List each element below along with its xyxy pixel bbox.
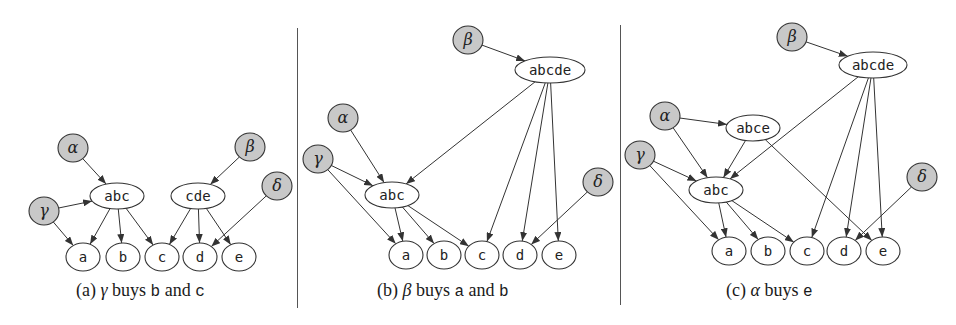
caption-agent: α: [750, 280, 759, 300]
panel-divider-1: [297, 28, 298, 308]
node-label: abc: [104, 188, 129, 204]
edge-alpha-to-abc: [673, 128, 707, 178]
node-label: β: [786, 27, 796, 46]
node-b: b: [427, 241, 461, 269]
node-label: b: [764, 243, 772, 259]
edge-beta-to-cde: [210, 157, 239, 184]
caption-panel-c: (c) α buys e: [726, 280, 813, 301]
edge-abcde-to-d: [846, 78, 871, 237]
edge-abc-to-a: [719, 203, 726, 237]
node-label: β: [462, 30, 472, 49]
panel-c-graph: βαγδabcdeabceabcabcde: [625, 23, 937, 265]
edge-delta-to-d: [855, 187, 911, 240]
caption-item-2: b: [499, 283, 509, 301]
node-label: abcde: [529, 62, 571, 78]
node-label: b: [119, 249, 127, 265]
node-gamma: γ: [29, 197, 59, 225]
edge-abc-to-c: [126, 208, 153, 245]
node-label: e: [235, 249, 243, 265]
caption-panel-b: (b) β buys a and b: [377, 280, 509, 301]
edge-abcde-to-d: [522, 83, 548, 241]
node-label: d: [840, 243, 848, 259]
node-label: α: [338, 108, 349, 127]
node-abc: abc: [90, 183, 144, 209]
node-cde: cde: [171, 183, 225, 209]
node-e: e: [866, 237, 900, 265]
node-label: e: [555, 247, 563, 263]
node-d: d: [503, 241, 537, 269]
edge-abc-to-a: [395, 208, 403, 241]
caption-label: (c): [726, 280, 746, 300]
caption-agent: γ: [100, 280, 107, 300]
bundle-purchase-diagram: αβγδabccdeabcde βαγδabcdeabcabcde βαγδab…: [0, 0, 956, 325]
panel-b-graph: βαγδabcdeabcabcde: [303, 26, 613, 269]
edge-gamma-to-abc: [653, 161, 696, 181]
caption-label: (a): [76, 280, 96, 300]
node-label: α: [68, 138, 79, 157]
caption-item-1: e: [803, 283, 813, 301]
node-beta: β: [777, 23, 807, 51]
node-label: a: [402, 247, 410, 263]
node-label: abce: [736, 120, 770, 136]
node-a: a: [389, 241, 423, 269]
node-label: a: [79, 249, 87, 265]
node-label: γ: [635, 145, 645, 164]
caption-agent: β: [403, 280, 412, 300]
caption-verb: buys: [764, 280, 798, 300]
edge-abc-to-a: [90, 209, 110, 245]
node-label: cde: [185, 188, 210, 204]
caption-panel-a: (a) γ buys b and c: [76, 280, 205, 301]
edge-abc-to-b: [118, 209, 121, 243]
node-label: δ: [593, 172, 603, 191]
node-label: γ: [313, 149, 323, 168]
node-label: c: [158, 249, 166, 265]
node-a: a: [712, 237, 746, 265]
edge-abcde-to-e: [874, 78, 883, 237]
node-label: abc: [379, 187, 404, 203]
node-label: b: [440, 247, 448, 263]
node-label: abc: [703, 182, 728, 198]
node-abce: abce: [726, 115, 780, 141]
edge-beta-to-abcde: [482, 45, 525, 61]
node-gamma: γ: [303, 145, 333, 173]
edge-beta-to-abcde: [806, 42, 848, 56]
node-d: d: [827, 237, 861, 265]
node-label: c: [478, 247, 486, 263]
node-e: e: [222, 243, 256, 271]
caption-item-2: c: [195, 283, 205, 301]
edge-abcde-to-abc: [406, 82, 535, 184]
node-beta: β: [453, 26, 483, 54]
node-abcde: abcde: [515, 57, 585, 83]
edge-abcde-to-c: [487, 83, 545, 242]
node-a: a: [66, 243, 100, 271]
node-e: e: [542, 241, 576, 269]
node-label: e: [879, 243, 887, 259]
caption-item-1: b: [151, 283, 161, 301]
node-c: c: [465, 241, 499, 269]
caption-label: (b): [377, 280, 398, 300]
node-b: b: [751, 237, 785, 265]
edge-abcde-to-e: [551, 83, 559, 241]
caption-verb: buys: [416, 280, 450, 300]
node-label: δ: [917, 167, 927, 186]
node-label: α: [660, 106, 671, 125]
node-label: γ: [39, 201, 49, 220]
node-label: abcde: [852, 57, 894, 73]
caption-item-1: a: [454, 283, 464, 301]
node-label: a: [725, 243, 733, 259]
edge-abc-to-c: [408, 206, 469, 247]
edge-abc-to-c: [732, 201, 794, 243]
node-label: c: [803, 243, 811, 259]
node-alpha: α: [58, 134, 88, 162]
node-alpha: α: [328, 104, 358, 132]
node-abc: abc: [365, 182, 419, 208]
edge-gamma-to-a: [53, 222, 73, 246]
node-beta: β: [235, 133, 265, 161]
node-gamma: γ: [625, 141, 655, 169]
edge-abce-to-abc: [723, 140, 745, 177]
edge-abcde-to-c: [812, 78, 869, 238]
node-label: δ: [272, 176, 282, 195]
node-b: b: [106, 243, 140, 271]
node-delta: δ: [262, 172, 292, 200]
node-delta: δ: [583, 168, 613, 196]
